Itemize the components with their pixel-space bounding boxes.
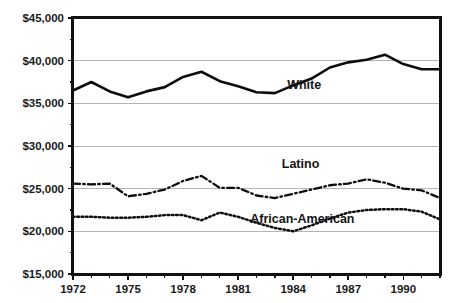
x-axis-tick-label: 1975	[115, 283, 141, 295]
x-axis-tick-label: 1990	[391, 283, 417, 295]
series-line-latino	[73, 176, 440, 198]
x-axis-tick-label: 1984	[280, 283, 306, 295]
y-axis-tick-label: $40,000	[22, 55, 64, 67]
y-axis-tick-label: $30,000	[22, 140, 64, 152]
y-axis-tick-label: $45,000	[22, 12, 64, 24]
series-label-african-american: African-American	[250, 212, 354, 226]
chart-canvas: $15,000$20,000$25,000$30,000$35,000$40,0…	[0, 0, 455, 303]
series-annotations-group: WhiteLatinoAfrican-American	[250, 78, 354, 226]
x-axis-tick-label: 1978	[170, 283, 196, 295]
x-axis-tick-label: 1987	[335, 283, 361, 295]
y-axis-tick-label: $25,000	[22, 183, 64, 195]
x-axis-tick-label: 1981	[225, 283, 251, 295]
series-label-latino: Latino	[282, 157, 320, 171]
data-series-group	[73, 55, 440, 232]
income-by-race-line-chart: $15,000$20,000$25,000$30,000$35,000$40,0…	[0, 0, 455, 303]
series-label-white: White	[287, 78, 321, 92]
y-axis-labels-group: $15,000$20,000$25,000$30,000$35,000$40,0…	[22, 12, 64, 280]
x-axis-tick-label: 1972	[60, 283, 86, 295]
y-axis-tick-label: $20,000	[22, 225, 64, 237]
y-axis-tick-label: $15,000	[22, 268, 64, 280]
x-axis-labels-group: 1972197519781981198419871990	[60, 283, 416, 295]
y-axis-tick-label: $35,000	[22, 97, 64, 109]
gridlines-group	[73, 61, 440, 232]
